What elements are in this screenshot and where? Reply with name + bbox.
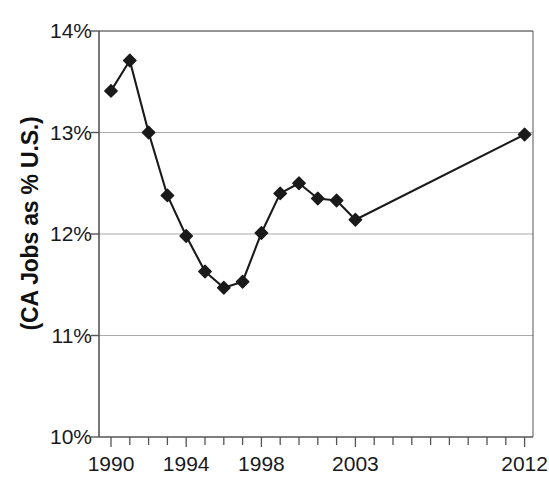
data-point-marker — [180, 230, 192, 242]
data-point-marker — [255, 227, 267, 239]
data-point-marker — [236, 276, 248, 288]
data-point-marker — [274, 187, 286, 199]
data-point-marker — [142, 126, 154, 138]
chart-container: (CA Jobs as % U.S.) 10%11%12%13%14% 1990… — [0, 0, 549, 500]
data-point-marker — [124, 54, 136, 66]
data-series-markers — [105, 54, 531, 294]
data-line — [111, 60, 525, 287]
x-axis-minor-ticks — [111, 437, 525, 447]
data-point-marker — [161, 189, 173, 201]
data-point-marker — [105, 85, 117, 97]
data-point-marker — [518, 128, 530, 140]
data-series-line — [111, 60, 525, 287]
plot-area — [0, 0, 549, 500]
y-axis-major-ticks — [91, 31, 99, 437]
